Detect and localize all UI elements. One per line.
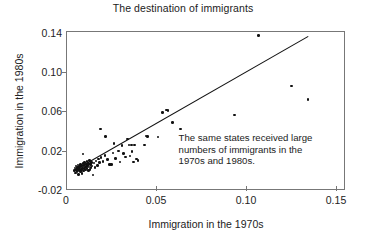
scatter-point — [113, 142, 116, 145]
scatter-point — [106, 158, 109, 161]
scatter-point — [114, 157, 117, 160]
scatter-point — [104, 154, 107, 157]
plot-area: The same states received large numbers o… — [66, 31, 345, 190]
scatter-point — [77, 173, 80, 176]
chart-figure: The destination of immigrants Immigratio… — [0, 0, 366, 242]
scatter-point — [126, 138, 129, 141]
scatter-point — [167, 109, 170, 112]
scatter-point — [307, 98, 310, 101]
x-tick-label: 0.10 — [224, 194, 268, 206]
scatter-point — [121, 144, 124, 147]
scatter-point — [96, 164, 99, 167]
x-tick-label: 0 — [44, 194, 88, 206]
scatter-point — [132, 161, 135, 164]
scatter-point — [122, 152, 125, 155]
y-tick-label: 0.14 — [22, 27, 62, 39]
scatter-point — [171, 121, 174, 124]
y-tick-label: 0.02 — [22, 145, 62, 157]
chart-title: The destination of immigrants — [0, 2, 366, 14]
x-axis-label: Immigration in the 1970s — [66, 218, 346, 230]
x-tick-label: 0.15 — [314, 194, 358, 206]
y-tick-label: 0.10 — [22, 66, 62, 78]
x-axis-ticks: 00.050.100.15 — [66, 192, 345, 212]
scatter-point — [117, 150, 120, 153]
scatter-point — [146, 135, 149, 138]
x-tick-label: 0.05 — [134, 194, 178, 206]
y-tick-label: 0.06 — [22, 105, 62, 117]
scatter-point — [257, 34, 260, 37]
x-tick-mark — [246, 186, 247, 191]
x-tick-mark — [156, 186, 157, 191]
annotation-text: The same states received large numbers o… — [179, 132, 313, 167]
scatter-point — [233, 114, 236, 117]
scatter-point — [98, 161, 101, 164]
scatter-point — [124, 156, 127, 159]
scatter-point — [110, 163, 113, 166]
scatter-point — [161, 111, 164, 114]
scatter-point — [104, 135, 107, 138]
x-tick-mark — [336, 186, 337, 191]
y-axis-ticks: -0.020.020.060.100.14 — [18, 31, 62, 190]
